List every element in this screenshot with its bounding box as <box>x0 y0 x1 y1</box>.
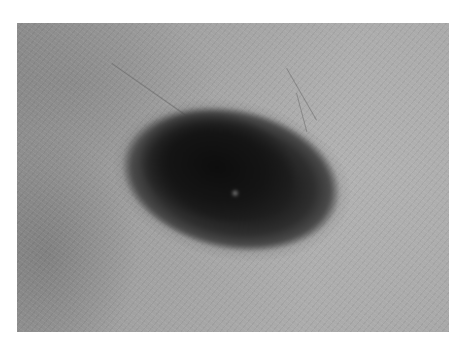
skin-photo <box>17 23 449 332</box>
